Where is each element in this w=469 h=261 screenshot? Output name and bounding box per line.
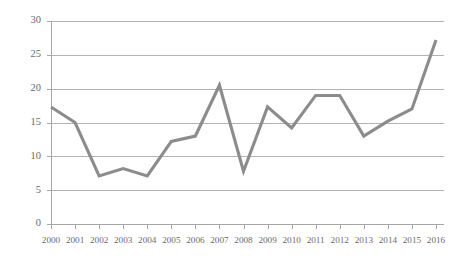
line-chart: 051015202530 200020012002200320042005200… (0, 0, 469, 261)
chart-canvas: 051015202530 200020012002200320042005200… (0, 0, 469, 261)
x-axis-label-2013: 2013 (355, 235, 374, 245)
x-axis-label-2002: 2002 (90, 235, 109, 245)
x-axis-label-2010: 2010 (282, 235, 301, 245)
x-axis-label-2003: 2003 (114, 235, 133, 245)
x-axis-label-2011: 2011 (307, 235, 325, 245)
x-axis-label-2016: 2016 (427, 235, 446, 245)
x-axis-label-2004: 2004 (138, 235, 157, 245)
x-axis-label-2014: 2014 (379, 235, 398, 245)
x-axis-label-2006: 2006 (186, 235, 205, 245)
y-axis-label-5: 5 (36, 184, 41, 195)
x-axis-label-2008: 2008 (234, 235, 253, 245)
y-axis-label-10: 10 (31, 150, 42, 161)
chart-background (0, 0, 469, 261)
x-axis-label-2009: 2009 (258, 235, 277, 245)
x-axis-label-2005: 2005 (162, 235, 181, 245)
x-axis-tick-labels: 2000200120022003200420052006200720082009… (42, 235, 446, 245)
x-axis-label-2007: 2007 (210, 235, 229, 245)
x-axis-label-2012: 2012 (331, 235, 350, 245)
y-axis-label-15: 15 (31, 116, 42, 127)
y-axis-label-25: 25 (31, 48, 42, 59)
y-axis-label-0: 0 (36, 217, 41, 228)
x-axis-label-2000: 2000 (42, 235, 61, 245)
x-axis-label-2001: 2001 (66, 235, 85, 245)
y-axis-label-30: 30 (31, 14, 42, 25)
x-axis-label-2015: 2015 (403, 235, 422, 245)
y-axis-label-20: 20 (31, 82, 42, 93)
